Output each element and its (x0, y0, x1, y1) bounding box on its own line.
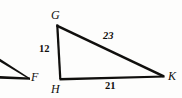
side-measure-GK: 23 (103, 31, 114, 42)
figure-canvas (0, 0, 182, 98)
vertex-label-F: F (31, 71, 38, 83)
vertex-label-K: K (168, 70, 176, 82)
side-GH (56, 25, 61, 80)
side-measure-HK: 21 (105, 81, 116, 92)
partial-triangle-at-F (0, 58, 30, 80)
vertex-label-H: H (51, 83, 60, 95)
side-measure-GH: 12 (39, 44, 50, 55)
geometry-figure: G H K F 12 23 21 (0, 0, 182, 98)
vertex-label-G: G (51, 9, 60, 21)
